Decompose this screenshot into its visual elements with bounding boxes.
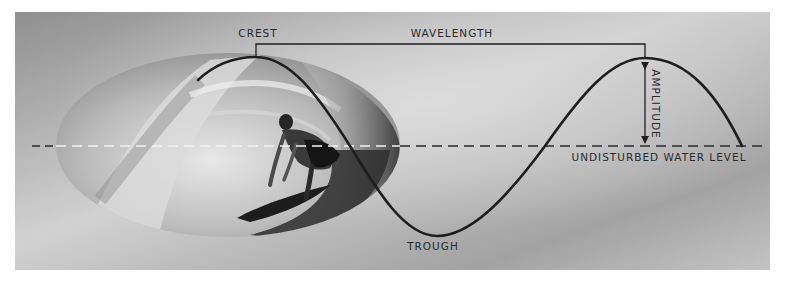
trough-label: TROUGH	[406, 240, 459, 252]
amplitude-label: AMPLITUDE	[650, 69, 662, 138]
wave-diagram: CREST WAVELENGTH AMPLITUDE TROUGH UNDIST…	[0, 0, 785, 283]
wavelength-label: WAVELENGTH	[411, 27, 494, 39]
water-level-label: UNDISTURBED WATER LEVEL	[571, 151, 746, 163]
crest-label: CREST	[238, 27, 277, 39]
